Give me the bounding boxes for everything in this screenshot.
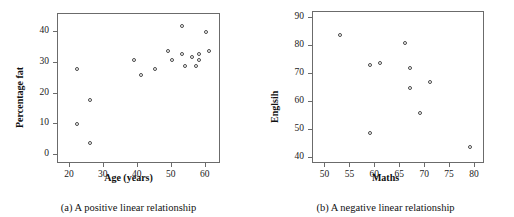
x-tick — [103, 163, 104, 167]
y-tick-label: 20 — [23, 87, 49, 97]
x-axis-title-b: Maths — [257, 172, 514, 183]
caption-a: (a) A positive linear relationship — [0, 202, 257, 213]
x-tick — [474, 163, 475, 167]
data-point — [403, 41, 407, 45]
data-point — [166, 49, 170, 53]
data-point — [75, 67, 79, 71]
data-point — [428, 80, 432, 84]
x-tick — [399, 163, 400, 167]
y-tick-label: 70 — [278, 67, 304, 77]
x-tick — [171, 163, 172, 167]
x-tick — [205, 163, 206, 167]
y-tick-label: 40 — [278, 151, 304, 161]
y-tick — [308, 73, 312, 74]
y-tick — [308, 129, 312, 130]
x-tick — [424, 163, 425, 167]
plot-area-b — [313, 12, 483, 162]
caption-b: (b) A negative linear relationship — [257, 202, 514, 213]
y-tick — [53, 62, 57, 63]
data-point — [132, 58, 136, 62]
figure-container: 2030405060010203040 Age (years) Percenta… — [0, 0, 514, 217]
panel-a: 2030405060010203040 Age (years) Percenta… — [0, 0, 257, 217]
y-tick — [308, 45, 312, 46]
data-point — [88, 141, 92, 145]
data-point — [194, 64, 198, 68]
x-tick — [324, 163, 325, 167]
data-point — [88, 98, 92, 102]
panel-b: 50556065707580405060708090 Maths Englsih… — [257, 0, 514, 217]
data-point — [183, 64, 187, 68]
x-tick — [349, 163, 350, 167]
plot-frame-a — [57, 13, 220, 163]
data-point — [468, 145, 472, 149]
y-tick — [53, 154, 57, 155]
data-point — [190, 55, 194, 59]
data-point — [153, 67, 157, 71]
data-point — [180, 52, 184, 56]
data-point — [368, 131, 372, 135]
x-tick — [374, 163, 375, 167]
y-tick — [53, 123, 57, 124]
y-tick-label: 80 — [278, 39, 304, 49]
data-point — [204, 30, 208, 34]
data-point — [368, 63, 372, 67]
plot-area-a — [58, 14, 219, 162]
data-point — [408, 66, 412, 70]
data-point — [418, 111, 422, 115]
y-tick — [308, 101, 312, 102]
y-tick — [308, 17, 312, 18]
y-tick — [53, 31, 57, 32]
y-tick-label: 10 — [23, 117, 49, 127]
x-tick — [449, 163, 450, 167]
y-tick-label: 0 — [23, 148, 49, 158]
data-point — [378, 61, 382, 65]
data-point — [75, 122, 79, 126]
data-point — [338, 33, 342, 37]
y-tick-label: 30 — [23, 56, 49, 66]
data-point — [139, 73, 143, 77]
data-point — [197, 58, 201, 62]
data-point — [207, 49, 211, 53]
x-axis-title-a: Age (years) — [0, 172, 257, 183]
y-axis-title-a: Percentage fat — [14, 67, 25, 128]
plot-frame-b — [312, 11, 484, 163]
y-tick-label: 40 — [23, 25, 49, 35]
data-point — [408, 86, 412, 90]
y-axis-title-b: Englsih — [269, 91, 280, 123]
x-tick — [69, 163, 70, 167]
y-tick-label: 90 — [278, 11, 304, 21]
y-tick-label: 60 — [278, 95, 304, 105]
data-point — [180, 24, 184, 28]
y-tick — [53, 93, 57, 94]
y-tick — [308, 157, 312, 158]
data-point — [170, 58, 174, 62]
data-point — [197, 52, 201, 56]
y-tick-label: 50 — [278, 123, 304, 133]
x-tick — [137, 163, 138, 167]
